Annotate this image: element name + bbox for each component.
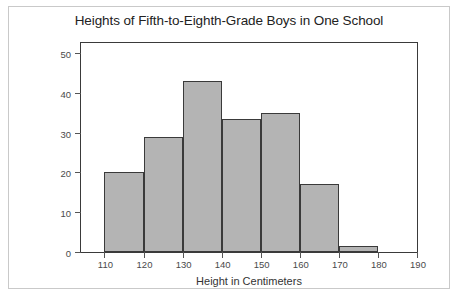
x-tick-label: 190 <box>410 259 426 270</box>
y-tick-label: 10 <box>60 208 71 219</box>
x-tick: 140 <box>222 252 223 258</box>
x-tick: 130 <box>183 252 184 258</box>
y-tick: 20 <box>75 172 81 173</box>
y-axis-title-wrapper: Number of Boys <box>22 0 36 42</box>
y-tick: 40 <box>75 93 81 94</box>
y-tick-label: 40 <box>60 88 71 99</box>
x-tick-label: 130 <box>176 259 192 270</box>
x-tick: 170 <box>339 252 340 258</box>
x-axis-title: Height in Centimeters <box>80 275 418 287</box>
x-tick-label: 140 <box>215 259 231 270</box>
x-tick: 150 <box>261 252 262 258</box>
histogram-bar <box>104 172 143 252</box>
x-tick-label: 180 <box>371 259 387 270</box>
y-tick: 10 <box>75 212 81 213</box>
y-tick-label: 30 <box>60 128 71 139</box>
x-tick-label: 160 <box>293 259 309 270</box>
histogram-bar <box>261 113 300 252</box>
histogram-bar <box>339 246 378 252</box>
x-tick: 160 <box>300 252 301 258</box>
bars-layer <box>81 43 417 252</box>
y-axis-title: Number of Boys <box>24 0 36 42</box>
x-tick: 110 <box>104 252 105 258</box>
x-tick: 180 <box>378 252 379 258</box>
y-tick: 50 <box>75 53 81 54</box>
y-tick-label: 50 <box>60 48 71 59</box>
y-tick-label: 20 <box>60 168 71 179</box>
histogram-bar <box>222 119 261 252</box>
y-tick-label: 0 <box>66 248 71 259</box>
y-tick: 30 <box>75 133 81 134</box>
histogram-bar <box>300 184 339 252</box>
x-tick-label: 120 <box>137 259 153 270</box>
y-tick: 0 <box>75 252 81 253</box>
plot-area: 01020304050 110120130140150160170180190 <box>80 42 418 253</box>
x-tick: 190 <box>417 252 418 258</box>
x-tick-label: 150 <box>254 259 270 270</box>
histogram-bar <box>183 81 222 252</box>
x-tick-label: 170 <box>332 259 348 270</box>
chart-title: Heights of Fifth-to-Eighth-Grade Boys in… <box>0 13 458 28</box>
x-tick-label: 110 <box>98 259 113 270</box>
histogram-figure: Heights of Fifth-to-Eighth-Grade Boys in… <box>0 0 458 300</box>
histogram-bar <box>144 137 183 252</box>
x-tick: 120 <box>144 252 145 258</box>
